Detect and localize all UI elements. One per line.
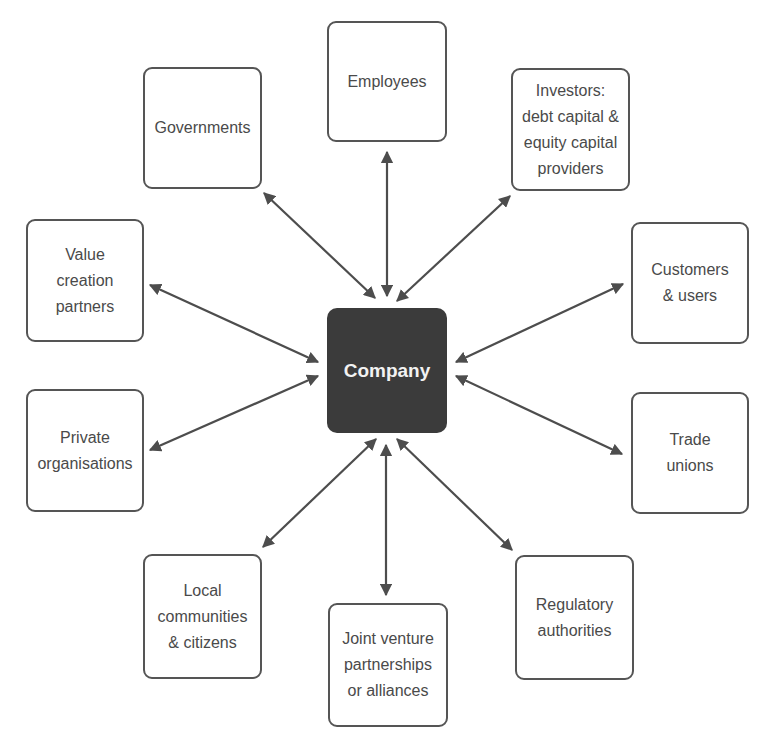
stakeholder-node-customers-users: Customers & users <box>631 222 749 344</box>
stakeholder-node-joint-venture: Joint venture partnerships or alliances <box>328 603 448 727</box>
stakeholder-label: Governments <box>154 115 250 141</box>
double-arrow-investors <box>397 196 510 301</box>
stakeholder-node-trade-unions: Trade unions <box>631 392 749 514</box>
double-arrow-value-creation-partners <box>150 285 318 362</box>
stakeholder-node-governments: Governments <box>143 67 262 189</box>
stakeholder-label: Customers & users <box>651 257 728 309</box>
stakeholder-node-employees: Employees <box>327 21 447 142</box>
stakeholder-label: Employees <box>347 69 426 95</box>
double-arrow-trade-unions <box>456 376 622 454</box>
double-arrow-private-organisations <box>150 376 318 450</box>
stakeholder-label: Investors: debt capital & equity capital… <box>522 78 619 182</box>
stakeholder-label: Regulatory authorities <box>536 592 613 644</box>
double-arrow-regulatory-authorities <box>397 439 512 550</box>
double-arrow-local-communities <box>263 439 376 547</box>
stakeholder-label: Trade unions <box>666 427 713 479</box>
stakeholder-label: Joint venture partnerships or alliances <box>342 626 434 704</box>
stakeholder-node-private-organisations: Private organisations <box>26 389 144 512</box>
stakeholder-node-local-communities: Local communities & citizens <box>143 554 262 679</box>
company-label: Company <box>344 360 431 382</box>
double-arrow-governments <box>264 193 375 298</box>
stakeholder-node-value-creation-partners: Value creation partners <box>26 219 144 342</box>
stakeholder-label: Local communities & citizens <box>158 578 248 656</box>
stakeholder-label: Value creation partners <box>56 242 115 320</box>
stakeholder-node-investors: Investors: debt capital & equity capital… <box>511 68 630 191</box>
stakeholder-label: Private organisations <box>37 425 132 477</box>
company-node: Company <box>327 308 447 433</box>
double-arrow-customers-users <box>456 284 623 362</box>
stakeholder-node-regulatory-authorities: Regulatory authorities <box>515 555 634 680</box>
stakeholder-diagram: Company EmployeesGovernmentsInvestors: d… <box>0 0 768 744</box>
